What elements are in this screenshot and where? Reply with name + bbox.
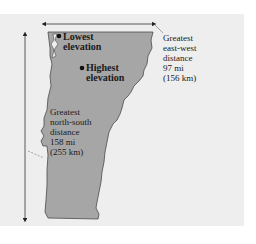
north-south-distance-label: Greatest north-south distance 158 mi (25…: [50, 107, 92, 157]
east-west-leader: [154, 24, 163, 33]
east-west-distance-label: Greatest east-west distance 97 mi (156 k…: [163, 33, 197, 83]
lowest-elevation-label: Lowest elevation: [63, 32, 101, 52]
lowest-elevation-dot: [57, 34, 62, 39]
highest-elevation-dot: [80, 66, 85, 71]
vermont-map: [0, 0, 256, 244]
north-south-leader: [28, 151, 44, 158]
highest-elevation-label: Highest elevation: [86, 63, 124, 83]
